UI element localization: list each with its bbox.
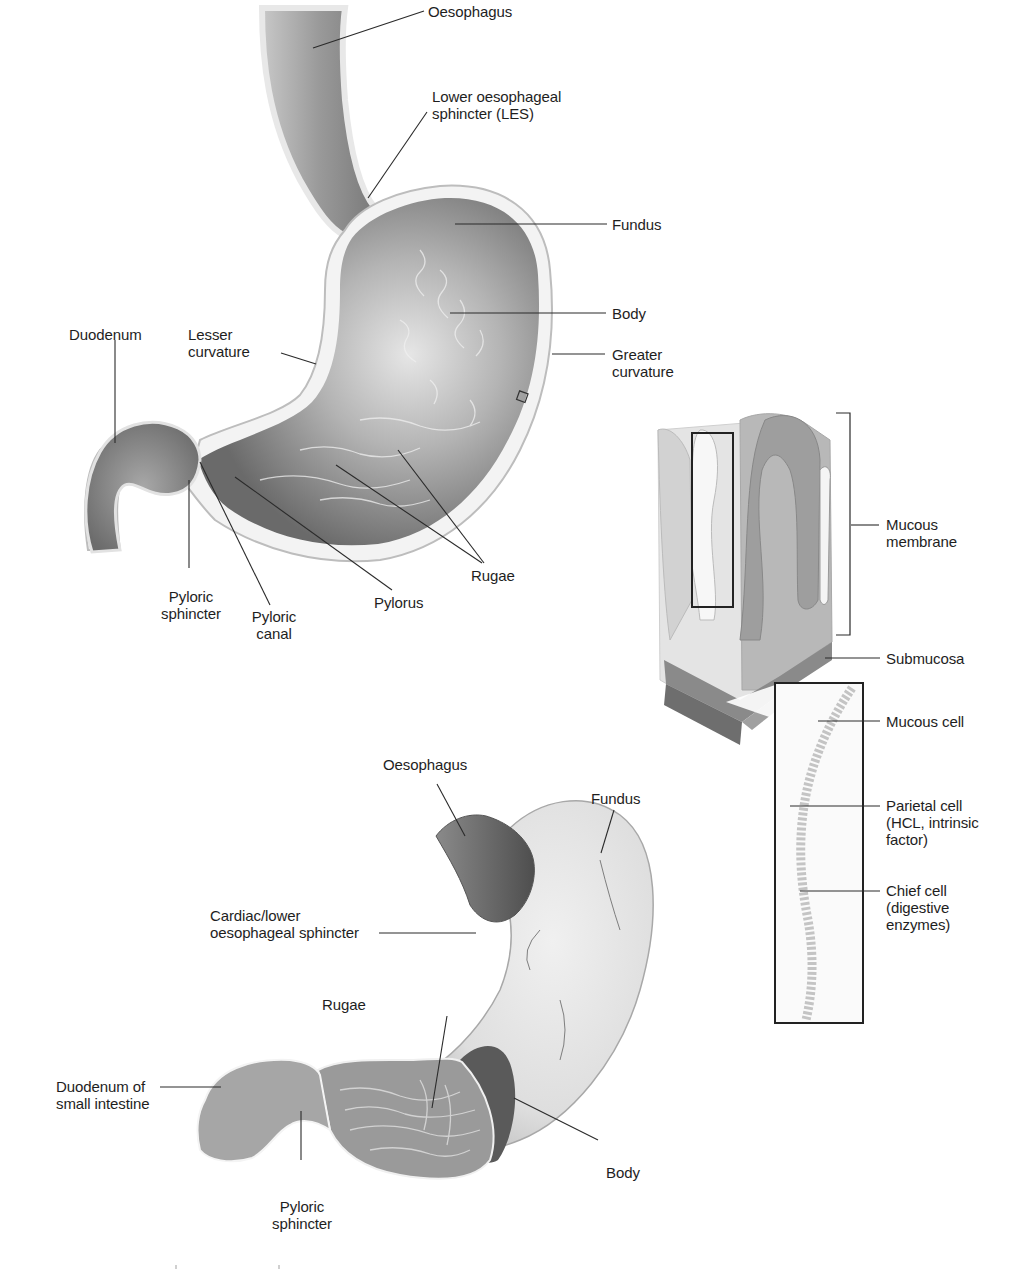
label-cardiac-sphincter: Cardiac/lower oesophageal sphincter xyxy=(210,907,359,941)
label-fundus-top: Fundus xyxy=(612,216,661,233)
label-pylorus: Pylorus xyxy=(374,594,423,611)
label-rugae-bottom: Rugae xyxy=(322,996,366,1013)
label-rugae-top: Rugae xyxy=(471,567,515,584)
label-mucous-membrane: Mucous membrane xyxy=(886,516,957,550)
stomach-anatomy-illustration xyxy=(0,0,1031,1278)
label-duodenum: Duodenum xyxy=(69,326,142,343)
label-lesser-curvature: Lesser curvature xyxy=(188,326,250,360)
label-duodenum-small-intestine: Duodenum of small intestine xyxy=(56,1078,150,1112)
scan-artifacts xyxy=(175,1265,280,1269)
label-lower-oesophageal-sphincter: Lower oesophageal sphincter (LES) xyxy=(432,88,561,122)
label-oesophagus-top: Oesophagus xyxy=(428,3,512,20)
label-parietal-cell: Parietal cell (HCL, intrinsic factor) xyxy=(886,797,979,848)
label-pyloric-sphincter-top: Pyloric sphincter xyxy=(152,588,230,622)
label-body-bottom: Body xyxy=(606,1164,640,1181)
label-body-top: Body xyxy=(612,305,646,322)
stomach-external-view-drawing xyxy=(198,801,654,1179)
label-submucosa: Submucosa xyxy=(886,650,964,667)
label-pyloric-canal: Pyloric canal xyxy=(244,608,304,642)
label-pyloric-sphincter-bottom: Pyloric sphincter xyxy=(262,1198,342,1232)
label-oesophagus-bottom: Oesophagus xyxy=(383,756,467,773)
label-chief-cell: Chief cell (digestive enzymes) xyxy=(886,882,950,933)
stomach-wall-histology-drawing xyxy=(658,413,863,1023)
label-mucous-cell: Mucous cell xyxy=(886,713,964,730)
label-greater-curvature: Greater curvature xyxy=(612,346,674,380)
label-fundus-bottom: Fundus xyxy=(591,790,640,807)
